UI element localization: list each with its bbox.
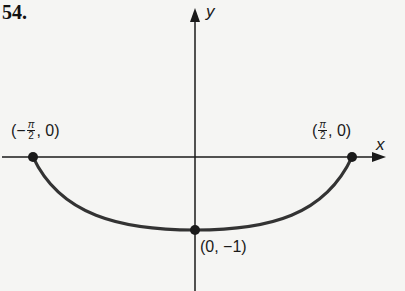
point-left-label: ( − π 2 , 0)	[11, 120, 60, 141]
graph-figure: 54. y x ( − π 2 , 0) ( π 2 , 0) (0, −1)	[0, 0, 405, 291]
curve	[33, 157, 352, 230]
point-left	[28, 152, 38, 162]
point-right-label: ( π 2 , 0)	[312, 120, 351, 141]
fraction: π 2	[318, 120, 327, 141]
fraction: π 2	[27, 120, 36, 141]
y-axis-label: y	[206, 2, 215, 22]
point-bottom	[190, 225, 200, 235]
problem-number: 54.	[2, 1, 27, 24]
point-bottom-label: (0, −1)	[200, 238, 247, 256]
x-axis-label: x	[376, 135, 385, 155]
point-right	[347, 152, 357, 162]
y-axis-arrow-icon	[190, 8, 200, 22]
